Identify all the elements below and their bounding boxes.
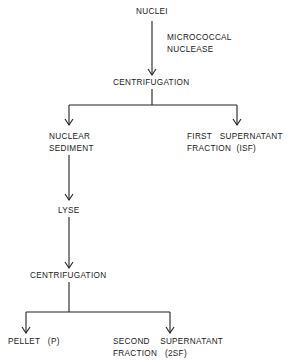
node-lyse: LYSE [58, 205, 80, 217]
node-pellet: PELLET (P) [8, 336, 60, 348]
edge-label-nuclease-line2: NUCLEASE [167, 44, 214, 56]
node-isf-line2: FRACTION (ISF) [187, 143, 256, 155]
flowchart-connectors [0, 0, 299, 363]
edge-label-nuclease-line1: MICROCOCCAL [167, 32, 232, 44]
node-centrifugation-1: CENTRIFUGATION [113, 77, 189, 89]
node-2sf-line2: FRACTION (2SF) [113, 348, 187, 360]
node-isf-line1: FIRST SUPERNATANT [187, 131, 283, 143]
node-nuclear-sediment-line2: SEDIMENT [49, 143, 94, 155]
node-nuclear-sediment-line1: NUCLEAR [49, 131, 90, 143]
node-nuclei: NUCLEI [136, 6, 168, 18]
node-2sf-line1: SECOND SUPERNATANT [113, 336, 223, 348]
node-centrifugation-2: CENTRIFUGATION [30, 270, 106, 282]
